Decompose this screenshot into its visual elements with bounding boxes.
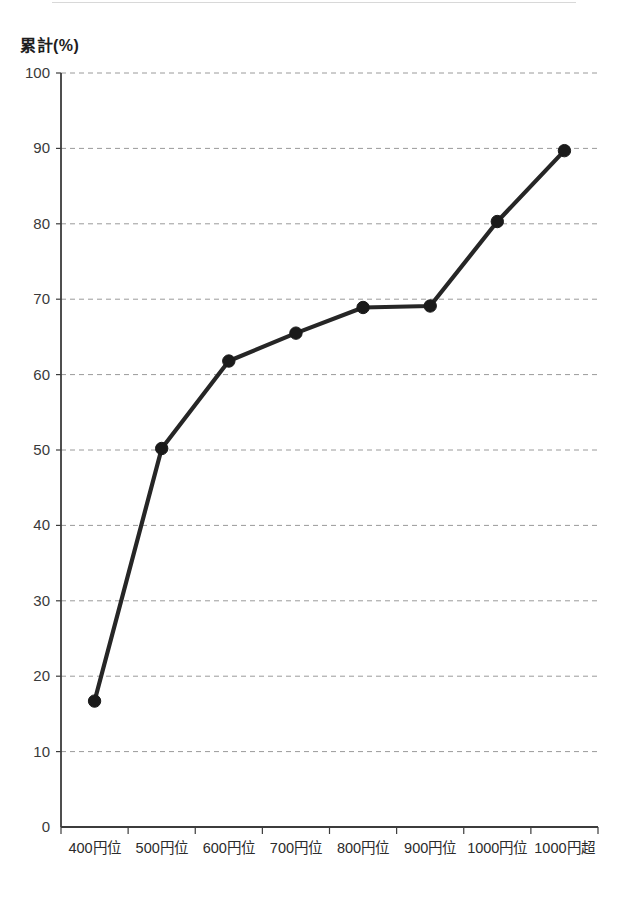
y-tick-label-50: 50 <box>33 441 50 458</box>
y-tick-label-60: 60 <box>33 366 50 383</box>
cumulative-percentage-line-chart: 0102030405060708090100 400円位500円位600円位70… <box>0 0 629 898</box>
y-tick-labels-group: 0102030405060708090100 <box>25 64 50 835</box>
x-tick-label-0: 400円位 <box>68 840 120 856</box>
gridlines-group <box>61 73 598 752</box>
data-point-800円位 <box>357 301 369 313</box>
x-tick-label-6: 1000円位 <box>467 840 527 856</box>
data-point-500円位 <box>155 442 167 454</box>
data-series-markers-group <box>88 144 570 707</box>
y-tick-label-10: 10 <box>33 743 50 760</box>
chart-page: 累計(%) 0102030405060708090100 400円位500円位6… <box>0 0 629 898</box>
x-tick-marks-group <box>61 827 598 834</box>
y-tick-label-30: 30 <box>33 592 50 609</box>
x-tick-label-1: 500円位 <box>136 840 188 856</box>
y-tick-label-40: 40 <box>33 516 50 533</box>
y-tick-label-20: 20 <box>33 667 50 684</box>
x-tick-label-5: 900円位 <box>404 840 456 856</box>
y-tick-label-0: 0 <box>42 818 50 835</box>
x-tick-label-2: 600円位 <box>203 840 255 856</box>
axis-lines-group <box>61 73 598 827</box>
y-tick-label-70: 70 <box>33 290 50 307</box>
x-tick-label-7: 1000円超 <box>534 840 595 856</box>
x-tick-labels-group: 400円位500円位600円位700円位800円位900円位1000円位1000… <box>68 840 595 856</box>
data-point-1000円位 <box>491 215 503 227</box>
x-tick-label-4: 800円位 <box>337 840 389 856</box>
series-polyline <box>95 151 565 701</box>
data-series-line-group <box>95 151 565 701</box>
y-tick-label-80: 80 <box>33 215 50 232</box>
data-point-900円位 <box>424 300 436 312</box>
y-tick-label-100: 100 <box>25 64 50 81</box>
data-point-600円位 <box>223 355 235 367</box>
x-tick-label-3: 700円位 <box>270 840 322 856</box>
data-point-400円位 <box>88 695 100 707</box>
data-point-1000円超 <box>558 144 570 156</box>
y-tick-label-90: 90 <box>33 139 50 156</box>
data-point-700円位 <box>290 327 302 339</box>
